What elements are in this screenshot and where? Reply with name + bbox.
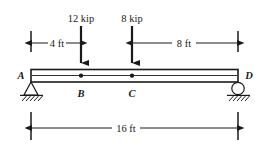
node-label-b: B: [76, 88, 84, 99]
dimension-4ft: 4 ft: [32, 38, 80, 49]
beam-diagram-canvas: 12 kip 8 kip 4 ft 8 ft: [0, 0, 260, 147]
dimension-label-4ft: 4 ft: [50, 38, 64, 49]
ground-hatch-a: [22, 96, 43, 101]
pin-support-a: [20, 82, 43, 101]
load-label-8kip: 8 kip: [121, 13, 142, 24]
node-label-d: D: [244, 70, 253, 81]
triangle-pin-support-icon: [24, 82, 38, 95]
roller-support-d: [227, 82, 250, 101]
node-label-c: C: [128, 88, 136, 99]
dimension-label-8ft: 8 ft: [177, 38, 191, 49]
point-marker-c: [130, 73, 134, 77]
dimension-label-16ft: 16 ft: [116, 123, 136, 134]
dimension-8ft: 8 ft: [133, 38, 237, 49]
load-label-12kip: 12 kip: [68, 13, 95, 24]
node-label-a: A: [16, 70, 24, 81]
circle-roller-support-icon: [232, 82, 244, 94]
point-marker-b: [79, 73, 83, 77]
ground-hatch-d: [229, 96, 250, 101]
beam-diagram: 12 kip 8 kip 4 ft 8 ft: [0, 0, 260, 147]
dimension-16ft: 16 ft: [32, 123, 237, 134]
